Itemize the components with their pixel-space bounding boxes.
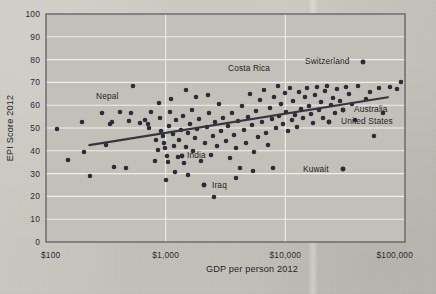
point-label: United States: [341, 116, 393, 126]
data-point: [368, 90, 373, 95]
data-point: [356, 84, 361, 89]
data-point: [301, 116, 306, 121]
data-point: [248, 92, 253, 97]
data-point: [217, 102, 222, 107]
data-point: [290, 118, 295, 123]
data-point: [209, 153, 214, 158]
data-point: [252, 150, 257, 155]
data-point: [315, 85, 320, 90]
data-point: [395, 87, 400, 92]
data-point: [190, 108, 195, 113]
data-point: [323, 89, 328, 94]
data-point: [311, 121, 316, 126]
data-point: [112, 165, 117, 170]
data-point: [303, 95, 308, 100]
y-axis-tick-label: 40: [30, 146, 40, 156]
data-point: [307, 104, 312, 109]
data-point: [215, 144, 220, 149]
data-point: [197, 117, 202, 122]
annotated-data-point: [327, 120, 332, 125]
data-point: [251, 169, 256, 174]
data-point: [182, 161, 187, 166]
data-point: [203, 141, 208, 146]
annotated-data-point: [202, 183, 207, 188]
data-point: [174, 118, 179, 123]
data-point: [100, 111, 105, 116]
data-point: [281, 122, 286, 127]
data-point: [131, 84, 136, 89]
annotated-data-point: [180, 154, 185, 159]
x-axis-tick-label: $1,000: [152, 250, 179, 260]
data-point: [313, 93, 318, 98]
data-point: [156, 148, 161, 153]
data-point: [118, 110, 123, 115]
data-point: [173, 170, 178, 175]
data-point: [274, 126, 279, 131]
data-point: [169, 97, 174, 102]
data-point: [291, 99, 296, 104]
y-axis-tick-label: 80: [30, 55, 40, 65]
scatter-chart: 0102030405060708090100 $100$1,000$10,000…: [0, 0, 436, 294]
data-point: [168, 110, 173, 115]
data-point: [177, 138, 182, 143]
data-point: [266, 143, 271, 148]
data-point: [66, 158, 71, 163]
point-label: Costa Rica: [228, 63, 270, 73]
point-label: Australia: [354, 104, 388, 114]
data-point: [193, 136, 198, 141]
data-point: [147, 126, 152, 131]
data-point: [181, 114, 186, 119]
y-axis-tick-label: 90: [30, 32, 40, 42]
y-axis-tick-labels: 0102030405060708090100: [25, 9, 40, 247]
data-point: [82, 150, 87, 155]
data-point: [164, 178, 169, 183]
data-point: [372, 134, 377, 139]
data-point: [232, 133, 237, 138]
data-point: [297, 90, 302, 95]
data-point: [221, 116, 226, 121]
point-label: India: [187, 150, 206, 160]
data-point: [335, 87, 340, 92]
data-point: [127, 119, 132, 124]
data-point: [188, 122, 193, 127]
data-point: [271, 166, 276, 171]
data-point: [388, 85, 393, 90]
data-point: [212, 195, 217, 200]
data-point: [138, 121, 143, 126]
data-point: [124, 166, 129, 171]
data-point: [270, 117, 275, 122]
data-point: [129, 111, 134, 116]
data-point: [167, 124, 172, 129]
data-point: [153, 159, 158, 164]
annotated-data-point: [341, 167, 346, 172]
data-point: [186, 173, 191, 178]
x-axis-title: GDP per person 2012: [206, 264, 298, 274]
data-point: [234, 176, 239, 181]
data-point: [286, 129, 291, 134]
data-point: [88, 174, 93, 179]
chart-svg: 0102030405060708090100 $100$1,000$10,000…: [0, 0, 436, 294]
y-axis-tick-label: 30: [30, 169, 40, 179]
data-point: [309, 112, 314, 117]
x-axis-tick-labels: $100$1,000$10,000$100,000: [41, 250, 413, 260]
data-point: [399, 80, 404, 85]
y-axis-tick-label: 20: [30, 191, 40, 201]
data-point: [230, 111, 235, 116]
point-label: Iraq: [212, 180, 227, 190]
data-point: [242, 128, 247, 133]
data-point: [256, 135, 261, 140]
data-point: [55, 127, 60, 132]
data-point: [234, 146, 239, 151]
data-point: [226, 124, 231, 129]
data-point: [262, 88, 267, 93]
annotated-data-point: [361, 60, 366, 65]
data-point: [211, 134, 216, 139]
data-point: [186, 131, 191, 136]
y-axis-tick-label: 60: [30, 100, 40, 110]
data-point: [158, 116, 163, 121]
data-point: [325, 84, 330, 89]
data-point: [162, 141, 167, 146]
y-axis-tick-label: 100: [25, 9, 40, 19]
data-point: [149, 110, 154, 115]
data-point: [268, 106, 273, 111]
